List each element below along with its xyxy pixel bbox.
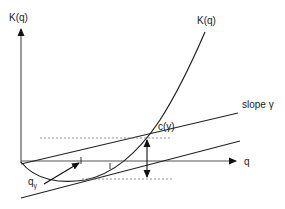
- tangent-line-lower: [21, 141, 240, 198]
- y-axis-label: K(q): [9, 12, 28, 23]
- slope-label: slope γ: [242, 99, 274, 110]
- gap-label: c(γ): [158, 121, 175, 132]
- q-gamma-label: qγ: [28, 176, 38, 190]
- cost-function-diagram: K(q) q slope γ K(q) c(γ) qγ: [0, 0, 285, 209]
- curve-label: K(q): [197, 15, 216, 26]
- x-axis-label: q: [244, 156, 250, 167]
- cost-curve: [21, 32, 205, 181]
- q-gamma-subscript: γ: [34, 182, 38, 190]
